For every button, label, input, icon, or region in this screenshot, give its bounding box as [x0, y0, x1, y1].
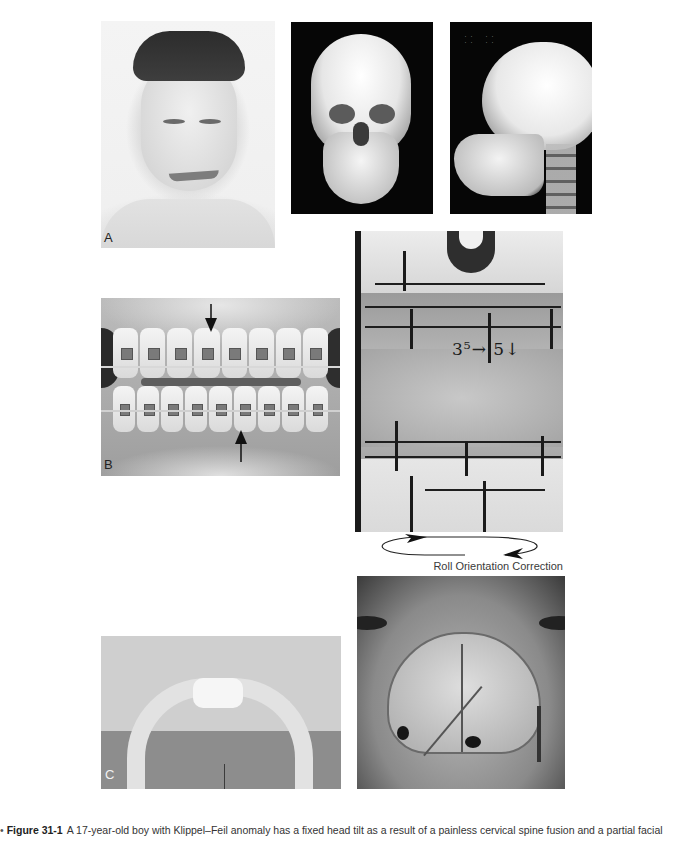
- figure-caption: •Figure 31-1A 17-year-old boy with Klipp…: [0, 824, 676, 837]
- arrow-down-icon: [205, 304, 217, 332]
- shirt: [101, 199, 275, 248]
- panel-label-c: C: [105, 768, 114, 781]
- retractor-shadow: [539, 616, 565, 630]
- reference-line: [395, 421, 398, 471]
- caption-text: A 17-year-old boy with Klippel–Feil anom…: [67, 824, 663, 836]
- mandible: [454, 134, 544, 196]
- cervical-spine: [546, 144, 576, 214]
- reference-line: [365, 306, 561, 308]
- roll-orientation-diagram: Roll Orientation Correction: [355, 533, 563, 575]
- reference-line: [465, 441, 468, 476]
- ct-lateral-skull-image: · · · · · · · ·: [450, 22, 592, 214]
- panel-label-b: B: [104, 458, 113, 471]
- lower-mounting-ring: [361, 459, 563, 532]
- ct-frontal-skull-image: [291, 22, 433, 214]
- right-eye: [199, 119, 221, 124]
- model-annotation: 3⁵→ 5↓: [452, 339, 520, 359]
- right-orbit: [369, 104, 395, 124]
- osteotomy-line: [461, 644, 463, 752]
- reference-line: [410, 309, 413, 349]
- panel-label-a: A: [104, 231, 113, 244]
- left-orbit: [329, 104, 355, 124]
- reference-line: [550, 309, 553, 349]
- reference-line: [403, 251, 406, 291]
- reference-line: [375, 283, 545, 285]
- intraoperative-cranium-photo: [357, 576, 565, 789]
- fixation-plate: [537, 706, 541, 762]
- nasal-cavity: [353, 122, 369, 146]
- burr-hole: [397, 726, 409, 740]
- reference-line: [541, 436, 544, 476]
- reference-line: [483, 481, 486, 532]
- left-eye: [163, 119, 185, 124]
- bone-specimen-photo: C: [101, 636, 341, 789]
- patient-portrait-photo: A: [101, 21, 275, 248]
- intraoral-braces-photo: B: [101, 298, 340, 476]
- bone-arch-center: [193, 678, 243, 708]
- dental-model-articulator-photo: 3⁵→ 5↓: [355, 231, 563, 532]
- reference-line: [365, 326, 561, 328]
- rotation-arrows-icon: [355, 533, 563, 563]
- roll-orientation-label: Roll Orientation Correction: [355, 560, 563, 572]
- arrow-up-icon: [235, 430, 247, 462]
- burr-hole: [465, 736, 481, 748]
- dental-casts: [361, 349, 563, 447]
- retractor-shadow: [357, 616, 387, 630]
- figure-number: Figure 31-1: [7, 824, 63, 836]
- ct-overlay-text: · · · · · · · ·: [464, 34, 494, 46]
- hair: [133, 31, 245, 81]
- midline-arrows: [101, 298, 340, 476]
- caption-bullet: •: [0, 824, 4, 836]
- surface-crack: [224, 764, 225, 789]
- reference-line: [410, 476, 413, 532]
- calvaria: [387, 632, 541, 754]
